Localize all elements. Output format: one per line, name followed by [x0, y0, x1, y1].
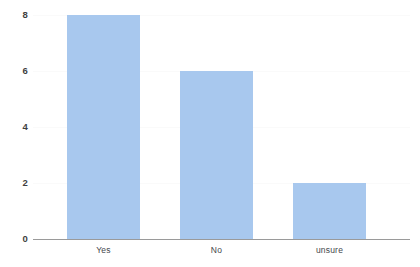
y-tick-label-8: 8 — [6, 10, 28, 20]
bar-chart: 8 6 4 2 0 Yes No unsure — [0, 0, 420, 267]
bar-unsure — [293, 183, 366, 239]
x-tick-label-yes: Yes — [47, 243, 160, 257]
x-tick-label-unsure: unsure — [273, 243, 386, 257]
y-axis-ticks: 8 6 4 2 0 — [0, 15, 28, 239]
bar-yes — [67, 15, 140, 239]
y-tick-label-2: 2 — [6, 178, 28, 188]
x-axis-line — [33, 239, 410, 240]
y-tick-label-6: 6 — [6, 66, 28, 76]
bars-layer — [33, 15, 410, 239]
bar-no — [180, 71, 253, 239]
y-tick-label-4: 4 — [6, 122, 28, 132]
x-tick-label-no: No — [160, 243, 273, 257]
x-axis-labels: Yes No unsure — [33, 243, 410, 259]
y-tick-label-0: 0 — [6, 234, 28, 244]
